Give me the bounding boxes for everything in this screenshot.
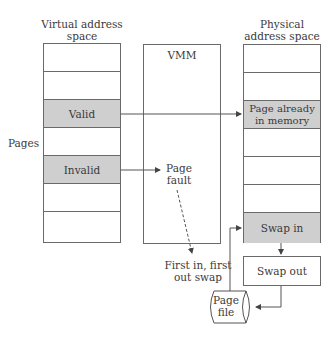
page-file-label: Page file <box>211 294 241 318</box>
connectors <box>0 0 335 339</box>
